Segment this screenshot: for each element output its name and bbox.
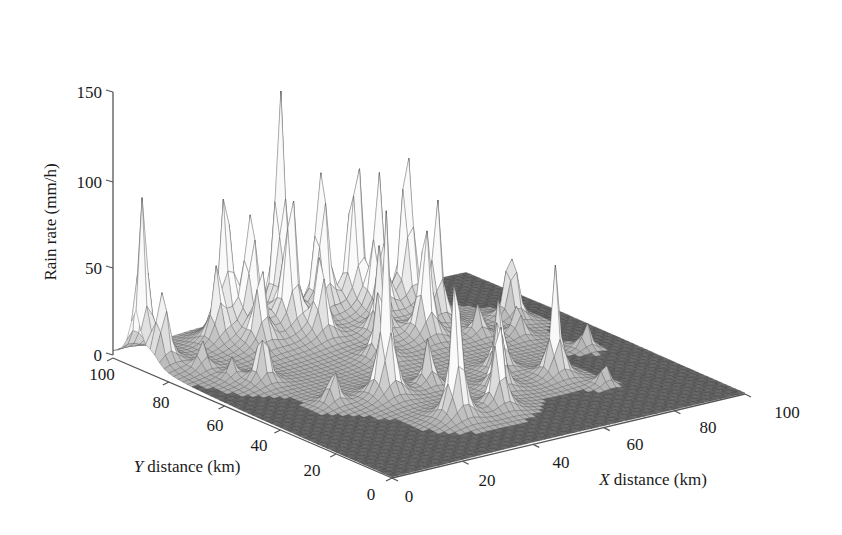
y-tick-label: 20 [304,461,321,480]
z-tick [106,90,113,92]
z-tick [106,266,113,268]
y-tick-label: 80 [153,393,170,412]
x-tick-label: 80 [700,418,717,437]
y-tick-label: 60 [207,416,224,435]
y-axis-title: Y distance (km) [134,457,241,476]
x-tick-label: 20 [479,471,496,490]
z-tick [106,353,113,355]
y-tick-label: 40 [251,436,268,455]
x-tick [604,428,610,431]
z-tick-label: 50 [85,259,102,278]
z-axis-title: Rain rate (mm/h) [41,163,60,280]
surface-plot: 0 50 100 150 Rain rate (mm/h) 100 80 60 … [0,0,842,535]
y-tick [219,406,225,409]
y-tick [274,430,280,433]
y-tick [330,454,336,457]
x-tick [392,478,398,481]
x-tick-label: 60 [627,435,644,454]
x-tick-label: 100 [774,403,800,422]
x-tick [463,461,469,464]
y-tick-label: 0 [367,485,376,504]
x-axis-title-var: X [598,470,610,489]
z-tick-label: 150 [77,83,103,102]
z-tick-label: 100 [77,173,103,192]
z-tick-label: 0 [94,346,103,365]
x-axis-title: X distance (km) [598,470,707,489]
y-tick-label: 100 [89,365,115,384]
y-tick [107,358,113,361]
x-tick [533,444,539,447]
x-tick-label: 40 [553,453,570,472]
y-tick [163,382,169,385]
z-tick [106,180,113,182]
y-tick [386,478,392,481]
y-axis-title-rest: distance (km) [143,457,240,476]
x-tick [745,394,751,397]
x-tick [674,411,680,414]
rain-rate-surface-chart: 0 50 100 150 Rain rate (mm/h) 100 80 60 … [0,0,842,535]
x-axis-title-rest: distance (km) [610,470,707,489]
z-axis: 0 50 100 150 Rain rate (mm/h) [41,83,113,365]
x-tick-label: 0 [405,487,414,506]
